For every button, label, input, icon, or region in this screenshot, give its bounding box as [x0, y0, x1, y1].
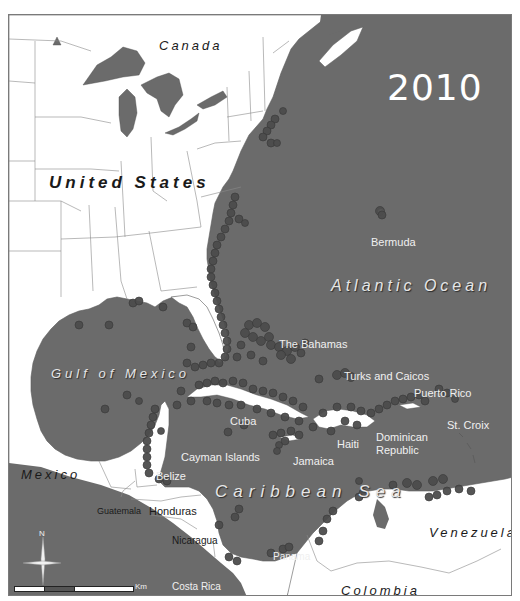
scale-tick-250: 250 — [37, 593, 50, 596]
scale-bar: Km 0 250 500 1,000 — [14, 586, 154, 596]
map-frame: 2010 Canada United States Mexico Venezue… — [8, 14, 512, 596]
scale-tick-1000: 1,000 — [121, 593, 141, 596]
scale-tick-500: 500 — [69, 593, 82, 596]
map-canvas — [9, 15, 512, 596]
